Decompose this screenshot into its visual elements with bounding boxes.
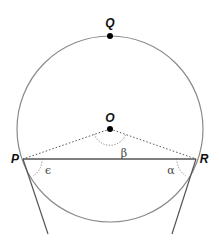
label-p: P (11, 152, 20, 166)
label-r: R (200, 152, 209, 166)
label-o: O (105, 111, 115, 125)
circle-diagram: Q O P R β ϵ α (0, 0, 219, 245)
label-epsilon: ϵ (45, 164, 51, 177)
angle-beta-arc (94, 134, 126, 145)
point-o (107, 126, 113, 132)
point-q (107, 33, 113, 39)
label-beta: β (121, 147, 127, 160)
angle-epsilon-arc (33, 159, 42, 176)
diagram-canvas: Q O P R β ϵ α (0, 0, 219, 245)
tangent-line-r (172, 159, 196, 234)
label-q: Q (105, 16, 115, 30)
angle-alpha-arc (177, 159, 186, 176)
radius-op (23, 129, 110, 159)
label-alpha: α (167, 164, 175, 177)
